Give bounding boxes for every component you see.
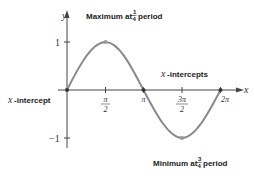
minimum-fraction-den: 4 [198,163,202,169]
point-minimum [180,136,184,140]
x-axis-label: x [243,84,249,95]
maximum-fraction-den: 4 [133,16,137,22]
x-tick-label-2pi: 2π [221,95,230,104]
x-tick-label-pi-over-2-num: π [103,95,108,104]
maximum-label-suffix: period [138,12,163,21]
maximum-label-prefix: Maximum at [86,12,133,21]
minimum-label-prefix: Minimum at [153,159,198,168]
maximum-fraction-num: 1 [133,9,137,15]
x-tick-label-3pi-over-2-den: 2 [180,105,184,114]
point-origin [65,88,69,92]
x-axis-arrow-icon [236,88,244,93]
x-intercepts-label: -intercepts [167,70,208,79]
y-axis-label: y [61,10,67,21]
maximum-annotation: Maximum at 1 4 period [86,9,163,22]
minimum-fraction-num: 3 [198,156,202,162]
x-intercept-annotation: x -intercept [7,94,51,105]
minimum-label-suffix: period [203,159,228,168]
point-maximum [104,40,108,44]
minimum-annotation: Minimum at 3 4 period [153,156,228,169]
x-intercepts-var: x [160,68,166,79]
y-tick-label-1: 1 [55,37,60,48]
x-intercept-label: -intercept [14,96,51,105]
point-2pi [219,88,223,92]
sine-graph: x y 1 −1 π 2 π 3π 2 2π Maximum at 1 4 pe… [0,0,254,176]
x-tick-label-pi-over-2-den: 2 [104,105,108,114]
y-tick-label-minus-1: −1 [49,133,60,144]
x-intercepts-annotation: x -intercepts [160,68,208,79]
point-pi [142,88,146,92]
x-tick-label-3pi-over-2-num: 3π [177,95,187,104]
x-intercept-var: x [7,94,13,105]
